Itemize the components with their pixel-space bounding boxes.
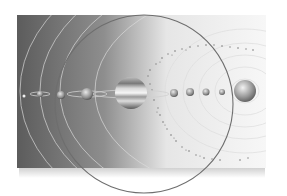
planet-1: [23, 95, 26, 98]
jupiter: [115, 77, 147, 109]
planet-3: [57, 91, 65, 99]
solar-system-illustration: [0, 0, 287, 196]
sun: [234, 80, 256, 102]
planet-7: [186, 88, 194, 96]
planet-9: [219, 89, 225, 95]
planet-8: [203, 89, 210, 96]
planet-4: [81, 88, 93, 100]
planet-2: [37, 91, 43, 97]
planet-6: [170, 89, 178, 97]
